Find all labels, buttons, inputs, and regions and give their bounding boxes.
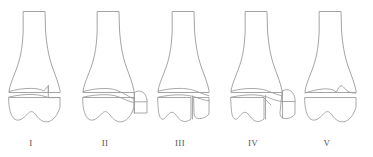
distal-epiphysis-outline-2: [83, 98, 134, 122]
distal-epiphysis-outline-1: [9, 98, 60, 122]
tibia-shaft-outline-2: [83, 12, 134, 93]
figure-label-3: III: [175, 138, 185, 148]
tibia-shaft-outline-5: [305, 12, 356, 93]
medial-epiphysis-outline-3: [158, 98, 191, 122]
figure-label-2: II: [102, 138, 109, 148]
figure-group-5: V: [305, 12, 356, 149]
figure-group-4: IV: [231, 12, 295, 149]
classification-diagram-svg: I II III: [0, 0, 373, 157]
figure-group-2: II: [83, 12, 147, 149]
figure-label-1: I: [29, 138, 32, 148]
figure-panel: I II III: [0, 0, 373, 157]
figure-group-3: III: [158, 12, 209, 149]
figure-label-5: V: [324, 138, 331, 148]
tibia-shaft-outline-3: [158, 12, 209, 93]
distal-epiphysis-outline-5: [305, 98, 356, 122]
tibia-shaft-outline-1: [9, 12, 60, 93]
figure-label-4: IV: [248, 138, 258, 148]
figure-group-1: I: [9, 12, 60, 149]
tibia-shaft-outline-4: [231, 12, 282, 93]
medial-epiphysis-outline-4: [231, 98, 264, 122]
